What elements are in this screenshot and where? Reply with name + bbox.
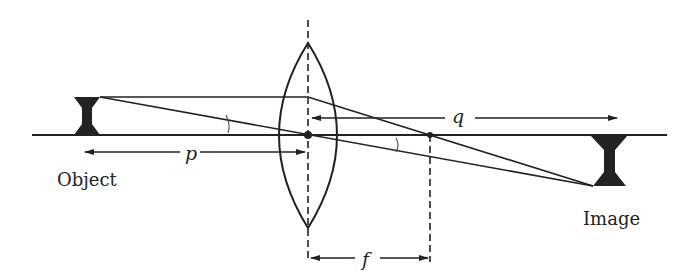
label-object: Object — [57, 169, 118, 190]
ray-central — [100, 97, 593, 186]
label-q: q — [452, 105, 464, 127]
label-p: p — [185, 142, 197, 164]
label-image: Image — [583, 208, 640, 229]
angle-arc-object-side — [226, 115, 229, 133]
lens-center-point — [304, 131, 312, 139]
image-shape — [590, 135, 628, 186]
object-shape — [74, 97, 100, 135]
label-f: f — [360, 248, 372, 270]
diagram-svg: p q f Object Image — [0, 0, 691, 278]
lens-diagram: p q f Object Image — [0, 0, 691, 278]
